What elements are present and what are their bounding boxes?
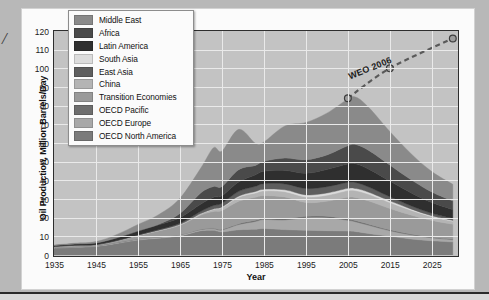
legend-item: Transition Economies — [74, 91, 189, 104]
legend-swatch — [74, 131, 93, 141]
y-axis-tick-label: 20 — [40, 213, 49, 223]
legend-item: Africa — [74, 27, 189, 40]
legend-item: OECD Europe — [74, 116, 189, 129]
y-axis-tick-label: 30 — [40, 195, 49, 205]
gridline-horizontal — [54, 236, 458, 237]
x-axis-tick-label: 1935 — [45, 260, 64, 270]
legend-label: Transition Economies — [99, 92, 176, 102]
x-axis-tick-label: 1965 — [171, 260, 190, 270]
legend-label: Latin America — [99, 41, 148, 51]
legend-item: South Asia — [74, 52, 189, 65]
y-axis-ticks: 0102030405060708090100110120 — [22, 30, 53, 257]
gridline-horizontal — [54, 180, 458, 181]
legend-item: China — [74, 78, 189, 91]
legend-item: OECD North America — [74, 129, 189, 142]
gridline-vertical — [432, 31, 433, 256]
y-axis-tick-label: 110 — [35, 45, 49, 55]
x-axis-tick-label: 2005 — [339, 260, 358, 270]
gridline-vertical — [306, 31, 307, 256]
legend-label: Africa — [99, 28, 120, 38]
legend-swatch — [74, 79, 93, 89]
gridline-vertical — [348, 31, 349, 256]
y-axis-tick-label: 60 — [40, 139, 49, 149]
legend-item: East Asia — [74, 65, 189, 78]
gridline-horizontal — [54, 199, 458, 200]
legend-swatch — [74, 28, 93, 38]
legend-item: Middle East — [74, 14, 189, 27]
legend-swatch — [74, 15, 93, 25]
legend-label: OECD North America — [99, 131, 176, 141]
legend-label: East Asia — [99, 67, 133, 77]
page-bottom-strip — [0, 294, 489, 300]
y-axis-tick-label: 100 — [35, 64, 49, 74]
x-axis-tick-label: 1995 — [297, 260, 316, 270]
legend-label: China — [99, 79, 120, 89]
legend-swatch — [74, 92, 93, 102]
x-axis-title: Year — [53, 272, 459, 282]
legend-label: Middle East — [99, 15, 141, 25]
y-axis-tick-label: 120 — [35, 27, 49, 37]
legend-label: OECD Pacific — [99, 105, 149, 115]
legend-swatch — [74, 54, 93, 64]
x-axis-tick-label: 1975 — [213, 260, 232, 270]
page-margin-glyph: / — [2, 30, 7, 47]
legend-swatch — [74, 105, 93, 115]
legend-swatch — [74, 67, 93, 77]
gridline-vertical — [222, 31, 223, 256]
legend-item: OECD Pacific — [74, 104, 189, 117]
x-axis-tick-label: 1945 — [87, 260, 106, 270]
y-axis-tick-label: 90 — [40, 83, 49, 93]
y-axis-tick-label: 10 — [40, 232, 49, 242]
y-axis-tick-label: 40 — [40, 176, 49, 186]
x-axis-tick-label: 1955 — [129, 260, 148, 270]
chart-legend: Middle EastAfricaLatin AmericaSouth Asia… — [68, 10, 194, 146]
chart-card: Oil Production, Million Barrels/Day 0102… — [22, 9, 474, 289]
y-axis-tick-label: 70 — [40, 120, 49, 130]
y-axis-tick-label: 0 — [44, 251, 49, 261]
legend-swatch — [74, 118, 93, 128]
y-axis-tick-label: 80 — [40, 101, 49, 111]
y-axis-tick-label: 50 — [40, 157, 49, 167]
weo-projection-marker — [449, 35, 456, 42]
legend-label: South Asia — [99, 54, 138, 64]
legend-swatch — [74, 41, 93, 51]
stacked-area-chart: Oil Production, Million Barrels/Day 0102… — [22, 9, 474, 289]
x-axis-tick-label: 1985 — [255, 260, 274, 270]
legend-label: OECD Europe — [99, 118, 151, 128]
x-axis-tick-label: 2015 — [381, 260, 400, 270]
gridline-horizontal — [54, 218, 458, 219]
gridline-horizontal — [54, 162, 458, 163]
page-background: / Oil Production, Million Barrels/Day 01… — [0, 0, 489, 300]
legend-item: Latin America — [74, 40, 189, 53]
x-axis-tick-label: 2025 — [423, 260, 442, 270]
gridline-vertical — [264, 31, 265, 256]
x-axis-ticks: 1935194519551965197519851995200520152025 — [53, 257, 459, 273]
